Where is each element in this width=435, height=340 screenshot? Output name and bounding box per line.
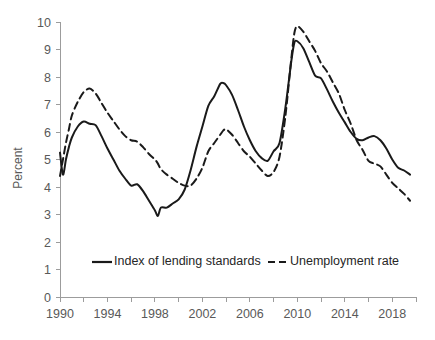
x-tick-label: 1998 [141, 307, 169, 321]
y-tick-label: 8 [44, 71, 51, 85]
y-tick-label: 1 [44, 263, 51, 277]
legend-label-1: Index of lending standards [114, 254, 261, 268]
y-axis-title: Percent [11, 147, 25, 189]
x-tick-label: 1994 [94, 307, 122, 321]
y-tick-label: 4 [44, 181, 51, 195]
x-tick-label: 1990 [46, 307, 74, 321]
y-tick-label: 5 [44, 153, 51, 167]
y-tick-label: 10 [37, 16, 51, 30]
y-tick-label: 7 [44, 98, 51, 112]
y-tick-label: 2 [44, 236, 51, 250]
y-tick-label: 0 [44, 291, 51, 305]
x-tick-label: 2006 [236, 307, 264, 321]
x-tick-label: 2002 [188, 307, 216, 321]
line-chart: 012345678910 199019941998200220062010201… [0, 0, 435, 340]
x-tick-label: 2018 [378, 307, 406, 321]
y-tick-label: 6 [44, 126, 51, 140]
legend-label-2: Unemployment rate [290, 254, 399, 268]
y-tick-label: 9 [44, 43, 51, 57]
x-tick-label: 2010 [283, 307, 311, 321]
chart-container: 012345678910 199019941998200220062010201… [0, 0, 435, 340]
chart-legend: Index of lending standardsUnemployment r… [92, 254, 399, 268]
x-tick-label: 2014 [331, 307, 359, 321]
y-tick-label: 3 [44, 208, 51, 222]
